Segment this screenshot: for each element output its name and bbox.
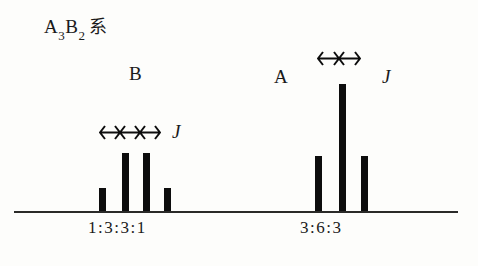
double-arrow-icon <box>338 51 361 66</box>
peak-b-2 <box>122 153 129 211</box>
double-arrow-icon <box>139 125 161 140</box>
group-label-a: A <box>274 67 288 86</box>
coupling-arrow-group-a <box>317 51 361 66</box>
spectrum-baseline <box>14 211 458 213</box>
intensity-ratio-b: 1:3:3:1 <box>88 219 147 236</box>
coupling-constant-label-b: J <box>172 122 180 141</box>
title-subscript-2: 2 <box>78 28 85 43</box>
double-arrow-icon <box>119 125 141 140</box>
peak-b-1 <box>99 188 106 211</box>
title-mid: B <box>65 16 78 37</box>
coupling-arrow-group-b <box>99 125 161 140</box>
figure-title: A3B2系 <box>44 12 108 42</box>
spectrum-figure: A3B2系 BJ1:3:3:1AJ3:6:3 <box>0 0 478 266</box>
peak-a-3 <box>361 156 368 211</box>
double-arrow-icon <box>317 51 340 66</box>
peak-a-2 <box>339 84 346 211</box>
title-subscript-1: 3 <box>58 28 65 43</box>
intensity-ratio-a: 3:6:3 <box>300 219 342 236</box>
title-prefix: A <box>44 16 58 37</box>
peak-b-3 <box>143 153 150 211</box>
coupling-constant-label-a: J <box>382 67 390 86</box>
peak-a-1 <box>315 156 322 211</box>
title-kanji: 系 <box>89 16 108 37</box>
double-arrow-icon <box>99 125 121 140</box>
group-label-b: B <box>129 64 142 83</box>
peak-b-4 <box>164 188 171 211</box>
